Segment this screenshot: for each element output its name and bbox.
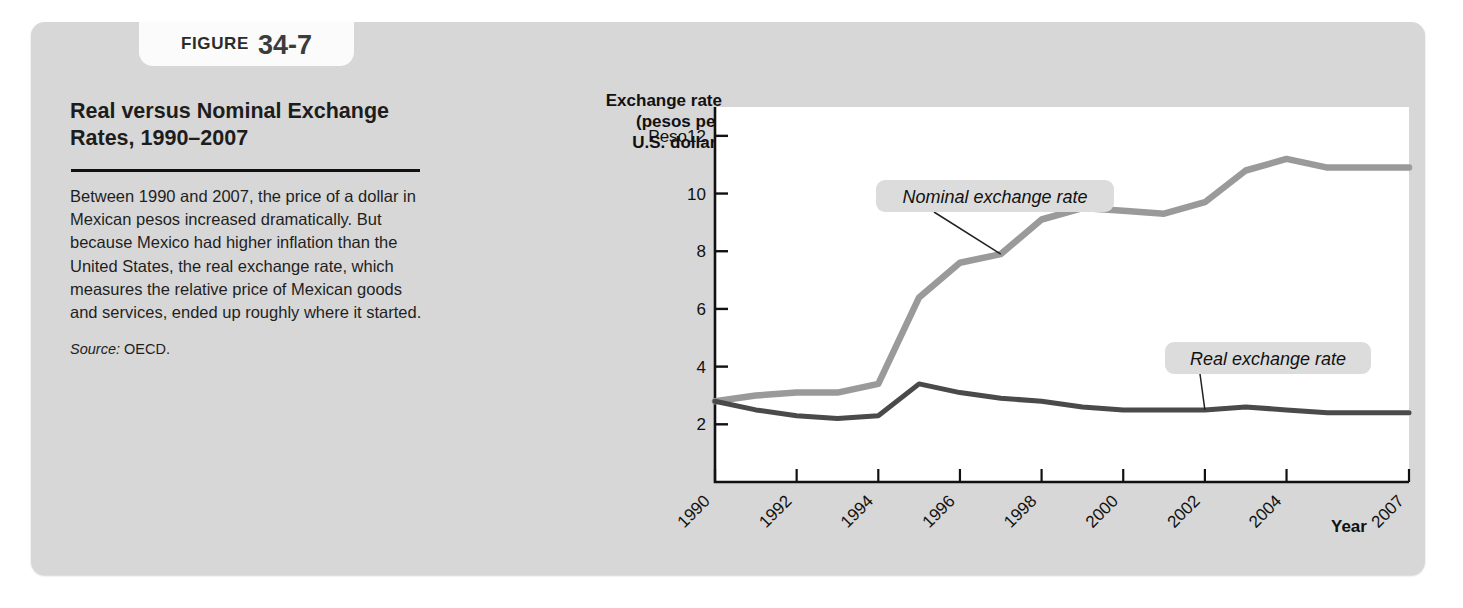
figure-caption: Between 1990 and 2007, the price of a do… xyxy=(70,185,427,324)
x-tick-label-2004: 2004 xyxy=(1245,491,1285,531)
x-tick-label-2007: 2007 xyxy=(1368,491,1408,531)
x-tick-label-group: 199019921994199619982000200220042007 xyxy=(674,491,1408,531)
x-tick-label-2000: 2000 xyxy=(1082,491,1122,531)
figure-label: FIGURE xyxy=(181,34,249,54)
y-tick-label-4: 4 xyxy=(697,358,706,377)
figure-source: Source: OECD. xyxy=(70,341,442,357)
x-axis-title: Year xyxy=(1331,517,1367,537)
y-tick-label-10: 10 xyxy=(687,185,706,204)
line-chart-plot: 246810Peso12 199019921994199619982000200… xyxy=(536,62,1416,562)
x-tick-label-1996: 1996 xyxy=(919,491,959,531)
source-value: OECD. xyxy=(124,341,170,357)
x-tick-label-1992: 1992 xyxy=(755,491,795,531)
x-tick-label-1990: 1990 xyxy=(674,491,714,531)
source-label: Source: xyxy=(70,341,120,357)
x-tick-label-1998: 1998 xyxy=(1000,491,1040,531)
annotation-label-real-exchange-rate: Real exchange rate xyxy=(1190,349,1346,369)
figure-number-tab: FIGURE 34-7 xyxy=(139,22,354,66)
y-tick-label-2: 2 xyxy=(697,415,706,434)
x-tick-label-2002: 2002 xyxy=(1164,491,1204,531)
x-tick-label-1994: 1994 xyxy=(837,491,877,531)
figure-title: Real versus Nominal Exchange Rates, 1990… xyxy=(70,98,400,152)
annotation-label-nominal-exchange-rate: Nominal exchange rate xyxy=(902,187,1087,207)
y-tick-label-6: 6 xyxy=(697,300,706,319)
y-tick-label-group: 246810Peso12 xyxy=(648,127,706,434)
title-divider xyxy=(71,169,420,172)
caption-column: Real versus Nominal Exchange Rates, 1990… xyxy=(70,98,442,357)
chart-container: Exchange rate (pesos per U.S. dollar) 24… xyxy=(536,62,1416,562)
figure-number: 34-7 xyxy=(258,30,312,61)
y-tick-label-12: Peso12 xyxy=(648,127,706,146)
figure-panel: FIGURE 34-7 Real versus Nominal Exchange… xyxy=(31,22,1425,575)
y-tick-label-8: 8 xyxy=(697,242,706,261)
